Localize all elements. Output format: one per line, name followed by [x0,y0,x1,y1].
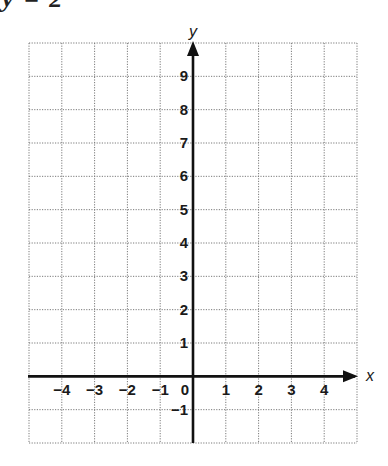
y-axis-label: y [188,23,198,40]
coordinate-grid: −4−3−2−101234 987654321−1 x y [0,0,388,466]
y-tick-label: 9 [180,67,188,84]
x-tick-label: 0 [181,381,189,398]
y-axis-arrow-icon [187,41,199,56]
y-tick-label: 4 [180,234,189,251]
y-tick-label: 7 [180,134,188,151]
x-tick-labels: −4−3−2−101234 [53,381,329,398]
x-tick-label: 1 [222,381,230,398]
x-axis-label: x [365,367,375,384]
x-tick-label: 4 [320,381,329,398]
x-tick-label: −3 [86,381,103,398]
y-tick-label: 5 [180,201,188,218]
x-tick-label: 2 [254,381,262,398]
x-tick-label: 3 [287,381,295,398]
x-tick-label: −2 [119,381,136,398]
y-tick-label: 1 [180,334,188,351]
y-tick-label: 2 [180,301,188,318]
y-tick-label: 6 [180,167,188,184]
axes [28,41,358,443]
y-tick-label: −1 [171,401,188,418]
y-tick-label: 8 [180,101,188,118]
x-axis-arrow-icon [343,370,358,382]
x-tick-label: −1 [152,381,169,398]
y-tick-labels: 987654321−1 [171,67,189,417]
x-tick-label: −4 [53,381,71,398]
y-tick-label: 3 [180,267,188,284]
